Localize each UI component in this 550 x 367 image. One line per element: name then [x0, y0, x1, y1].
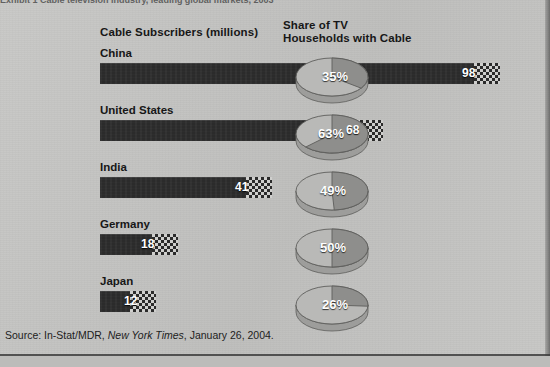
figure-page: Exhibit 1 Cable television industry, lea…: [0, 0, 550, 367]
share-pie-chart: [290, 110, 374, 160]
country-label-china: China: [100, 47, 132, 59]
source-prefix: Source: In-Stat/MDR,: [5, 329, 105, 341]
bar-value-label: 98: [462, 63, 475, 84]
pie-chart-graphic: [290, 224, 374, 276]
chart-row: China9835%: [0, 47, 550, 99]
source-suffix: , January 26, 2004.: [184, 329, 274, 341]
source-publication: New York Times: [108, 329, 184, 341]
column-header-share-of-tv-households: Share of TV Households with Cable: [283, 19, 412, 44]
bottom-margin-band: [0, 356, 550, 367]
bar-value-label: 12: [124, 291, 137, 312]
share-pie-chart: [290, 53, 374, 103]
country-label-united-states: United States: [100, 104, 174, 116]
bar-value-label: 18: [141, 234, 154, 255]
share-pie-chart: [290, 281, 374, 331]
cropped-caption-sliver: Exhibit 1 Cable television industry, lea…: [0, 0, 300, 7]
column-header-cable-subscribers: Cable Subscribers (millions): [100, 26, 258, 39]
pie-chart-graphic: [290, 53, 374, 105]
bar-value-label: 68: [346, 120, 359, 141]
cropped-caption-text: Exhibit 1 Cable television industry, lea…: [0, 0, 300, 6]
pie-chart-graphic: [290, 110, 374, 162]
chart-row: Germany1850%: [0, 218, 550, 270]
bar-value-label: 41: [235, 177, 248, 198]
bar-checker-tail: [246, 177, 272, 198]
country-label-japan: Japan: [100, 275, 133, 287]
share-pie-chart: [290, 224, 374, 274]
pie-chart-graphic: [290, 167, 374, 219]
bar-checker-tail: [152, 234, 178, 255]
country-label-germany: Germany: [100, 218, 150, 230]
country-label-india: India: [100, 161, 127, 173]
share-pie-chart: [290, 167, 374, 217]
pie-chart-graphic: [290, 281, 374, 333]
chart-row: United States6863%: [0, 104, 550, 156]
chart-row: India4149%: [0, 161, 550, 213]
subscribers-bar: [100, 234, 178, 255]
source-note: Source: In-Stat/MDR, New York Times, Jan…: [5, 329, 274, 341]
chart-row: Japan1226%: [0, 275, 550, 327]
bar-checker-tail: [474, 63, 500, 84]
